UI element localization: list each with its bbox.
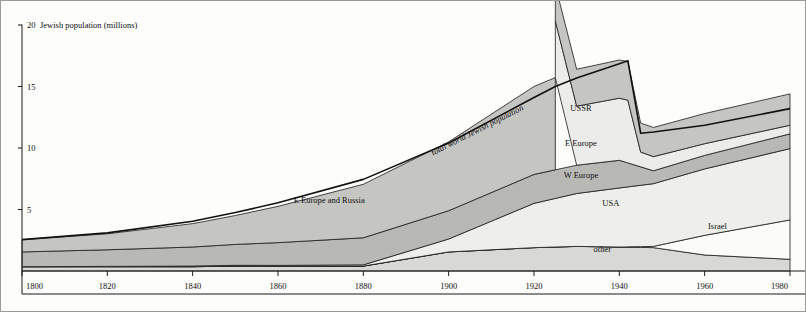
x-tick-label: 1800 (26, 281, 43, 291)
y-tick-label: 10 (27, 143, 36, 153)
x-tick-label: 1980 (771, 281, 788, 291)
jewish-population-stacked-area-chart: 5101520180018201840186018801900192019401… (0, 0, 806, 312)
x-tick-label: 1840 (184, 281, 201, 291)
chart-figure: 5101520180018201840186018801900192019401… (0, 0, 806, 312)
x-tick-label: 1880 (355, 281, 372, 291)
x-tick-label: 1960 (696, 281, 713, 291)
usa-label: USA (602, 198, 620, 208)
y-axis-title: Jewish population (millions) (40, 20, 137, 30)
x-tick-label: 1920 (526, 281, 543, 291)
x-tick-label: 1860 (270, 281, 287, 291)
e-europe-russia-label: E Europe and Russia (294, 195, 365, 205)
x-tick-label: 1820 (99, 281, 116, 291)
x-tick-label: 1940 (611, 281, 628, 291)
y-tick-label: 15 (27, 82, 36, 92)
w-europe-label: W Europe (564, 170, 599, 180)
y-tick-label: 5 (27, 205, 31, 215)
other-label: other (594, 244, 612, 254)
e-europe-label: E Europe (565, 138, 597, 148)
ussr-label: USSR (570, 103, 592, 113)
israel-label: Israel (708, 221, 728, 231)
y-tick-label: 20 (27, 20, 36, 30)
area-bands-group (22, 0, 790, 271)
x-tick-label: 1900 (440, 281, 457, 291)
